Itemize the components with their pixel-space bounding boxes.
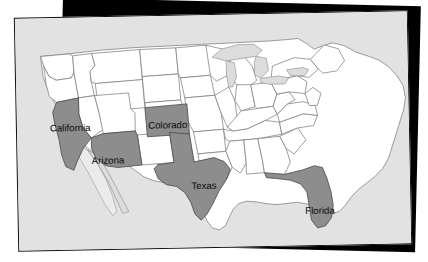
state-ar — [193, 129, 226, 154]
map-figure: California Arizona Colorado Texas Florid… — [0, 0, 428, 262]
label-texas: Texas — [191, 180, 217, 191]
state-sd — [142, 74, 181, 103]
map-card: California Arizona Colorado Texas Florid… — [14, 10, 412, 252]
state-ia — [180, 75, 215, 98]
state-nm — [137, 132, 174, 165]
label-california: California — [50, 122, 91, 134]
us-map-svg: California Arizona Colorado Texas Florid… — [15, 11, 411, 250]
label-arizona: Arizona — [92, 154, 125, 166]
label-colorado: Colorado — [148, 119, 187, 131]
label-florida: Florida — [305, 205, 335, 217]
state-nd — [140, 48, 179, 77]
state-mt — [90, 49, 143, 83]
us-map: California Arizona Colorado Texas Florid… — [15, 11, 411, 250]
